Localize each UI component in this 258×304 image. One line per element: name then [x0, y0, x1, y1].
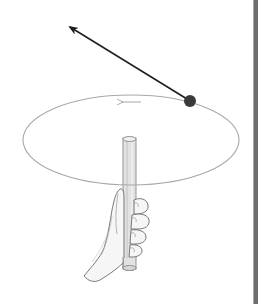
hand-icon	[84, 189, 149, 282]
ball	[184, 95, 196, 107]
velocity-arrow	[70, 27, 187, 99]
right-edge-border	[253, 0, 258, 304]
tube-front	[123, 257, 136, 271]
circular-motion-diagram	[0, 0, 258, 304]
